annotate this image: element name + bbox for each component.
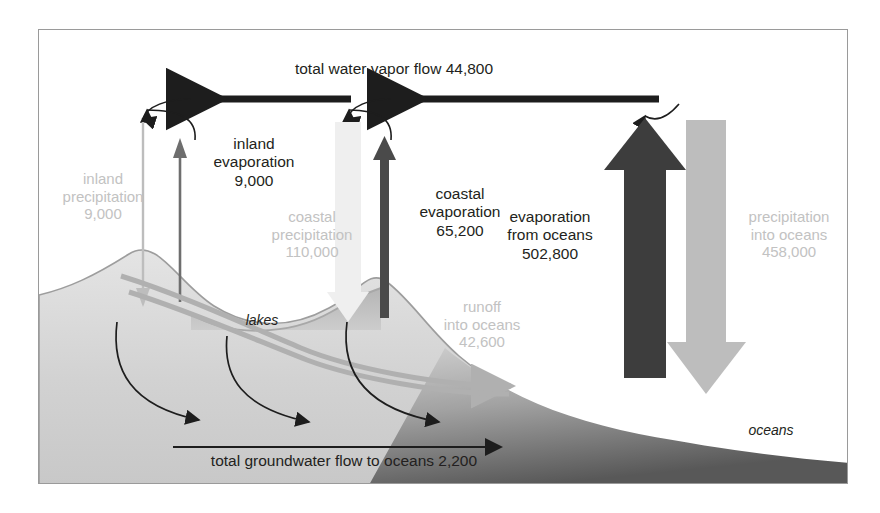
precipitation-into-oceans-label: precipitation into oceans 458,000 [729, 208, 848, 261]
runoff-into-oceans-label: runoff into oceans 42,600 [419, 298, 545, 351]
inland-evaporation-label: inland evaporation 9,000 [189, 135, 319, 190]
inland-junction-curves [143, 99, 195, 140]
water-cycle-diagram: total water vapor flow 44,800 inland pre… [0, 0, 880, 513]
inland-precipitation-label: inland precipitation 9,000 [47, 170, 159, 223]
inland-evap-curve [147, 110, 195, 140]
ocean-junction-curves [645, 104, 679, 119]
evaporation-from-oceans-label: evaporation from oceans 502,800 [477, 208, 623, 263]
groundwater-flow-label: total groundwater flow to oceans 2,200 [179, 452, 509, 470]
total-vapor-flow-label: total water vapor flow 44,800 [244, 60, 544, 78]
ocean-evap-curve [645, 104, 679, 119]
coastal-precipitation-label: coastal precipitation 110,000 [251, 208, 373, 261]
diagram-graphics [39, 30, 848, 484]
oceans-label: oceans [731, 422, 811, 439]
diagram-frame: total water vapor flow 44,800 inland pre… [38, 29, 848, 484]
lakes-label: lakes [227, 312, 297, 329]
